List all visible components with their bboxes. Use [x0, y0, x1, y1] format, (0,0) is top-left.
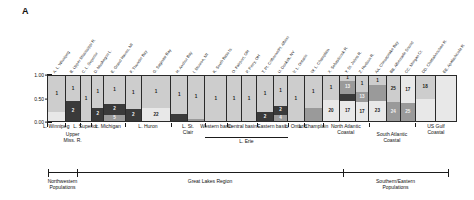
bar-segment: 24: [387, 102, 400, 121]
bar-segment: 17: [340, 101, 354, 121]
sample-size-label: 1: [264, 92, 267, 97]
bar-segment: [436, 76, 456, 121]
bar-Y: 11317: [340, 76, 355, 121]
locality-group-label: L. Erie: [216, 139, 276, 145]
bar-segment: 4: [274, 115, 287, 121]
site-label-T: T. Pt. Colborne/Pt. Albino: [262, 35, 291, 74]
bar-V: 1: [288, 76, 304, 121]
bar-segment: 25: [387, 76, 400, 102]
bar-segment: [340, 94, 354, 101]
bar-segment: 1: [104, 76, 125, 104]
bar-BB: 2524: [387, 76, 401, 121]
bar-U: 124: [274, 76, 288, 121]
bar-segment: 2: [66, 101, 79, 121]
bar-O: 1: [227, 76, 241, 121]
bar-segment: 2: [126, 109, 140, 121]
sample-size-label: 1: [312, 89, 315, 94]
bar-segment: [171, 114, 186, 121]
sample-size-label: 1: [248, 96, 251, 101]
bar-segment: 13: [340, 81, 354, 95]
bar-segment: [369, 85, 385, 101]
sample-size-label: 2: [264, 114, 267, 119]
site-label-F: F. Thunder Bay: [129, 49, 148, 74]
sample-size-label: 1: [295, 96, 298, 101]
bar-segment: 1: [126, 76, 140, 109]
sample-size-label: 1: [155, 90, 158, 95]
bar-segment: 1: [257, 76, 272, 112]
bar-segment: 17: [401, 76, 414, 103]
region-axis-tick: [77, 169, 78, 177]
sample-size-label: 1: [233, 96, 236, 101]
locality-tick: [257, 123, 258, 127]
sample-size-label: 2: [72, 109, 75, 114]
bar-segment: [188, 119, 204, 121]
bar-segment: [305, 108, 322, 122]
bar-CC: 1725: [401, 76, 415, 121]
bar-segment: 25: [401, 103, 414, 121]
locality-tick: [125, 123, 126, 127]
sample-size-label: 1: [96, 89, 99, 94]
bar-segment: 2: [274, 106, 287, 115]
bar-segment: 1: [288, 76, 303, 121]
bar-segment: 23: [369, 101, 385, 121]
sample-size-label: 22: [153, 112, 158, 117]
sample-size-label: 2: [132, 113, 135, 118]
y-tick-label: 0.50: [34, 96, 44, 102]
bar-K: 1: [205, 76, 227, 121]
sample-size-label: 25: [405, 110, 410, 115]
locality-tick: [171, 123, 172, 127]
sample-size-label: 2: [96, 112, 99, 117]
bar-segment: 1: [81, 76, 92, 121]
bar-segment: 1: [369, 76, 385, 85]
bar-segment: 2: [92, 108, 103, 122]
bar-segment: 1: [274, 76, 287, 106]
bar-EE: [436, 76, 456, 121]
bar-H: 1: [171, 76, 187, 121]
sample-size-label: 1: [195, 95, 198, 100]
sample-size-label: 1: [85, 96, 88, 101]
bar-segment: 1: [242, 76, 256, 121]
sample-size-label: 13: [359, 95, 364, 100]
bar-I: 1: [188, 76, 205, 121]
locality-tick: [323, 123, 324, 127]
bar-segment: 1: [227, 76, 240, 121]
bar-segment: 1: [305, 76, 322, 108]
bar-segment: 1: [92, 76, 103, 108]
bar-segment: 1: [356, 76, 369, 92]
region-axis-tick: [448, 169, 449, 177]
sample-size-label: 1: [113, 88, 116, 93]
bar-segment: 2: [257, 112, 272, 121]
bar-segment: 1: [171, 76, 186, 114]
sample-size-label: 2: [279, 108, 282, 113]
bar-W: 1: [305, 76, 323, 121]
locality-tier-2: L. Erie: [0, 136, 474, 154]
sample-size-label: 1: [376, 78, 379, 83]
sample-size-label: 1: [132, 90, 135, 95]
locality-tick: [415, 123, 416, 127]
region-axis-tick: [343, 169, 344, 177]
sample-size-label: 1: [72, 86, 75, 91]
region-axis-line: [48, 172, 448, 173]
bar-segment: 2: [104, 104, 125, 115]
region-axis-tick: [48, 169, 49, 177]
bar-segment: 1: [66, 76, 79, 101]
sample-size-label: 17: [359, 109, 364, 114]
bar-segment: 5: [104, 115, 125, 121]
sample-size-label: 23: [375, 109, 380, 114]
locality-tick: [47, 123, 48, 127]
bar-Z: 11317: [356, 76, 370, 121]
locality-tick: [205, 123, 206, 127]
sample-size-label: 18: [423, 85, 428, 90]
bar-segment: 17: [356, 102, 369, 121]
bar-segment: 1: [48, 76, 65, 112]
region-label: Northwestern Populations: [8, 178, 118, 190]
figure-panel: A A. L. WinnipegB. Upper Mississippi R.C…: [0, 0, 474, 200]
locality-tick: [91, 123, 92, 127]
sample-size-label: 24: [391, 109, 396, 114]
sample-size-label: 1: [215, 96, 218, 101]
sample-size-label: 1: [55, 92, 58, 97]
sample-size-label: 1: [279, 89, 282, 94]
region-axis: Northwestern PopulationsGreat Lakes Regi…: [0, 168, 474, 198]
bar-segment: [48, 112, 65, 121]
bar-C: 1: [81, 76, 93, 121]
